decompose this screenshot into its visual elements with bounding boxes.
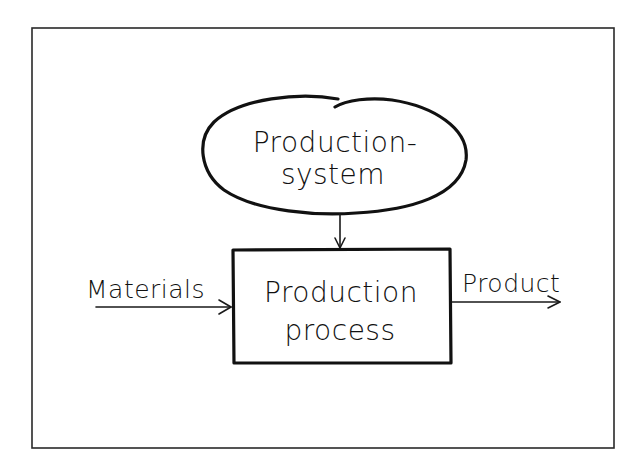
system-to-process-arrow: [335, 214, 345, 248]
materials-label: Materials: [86, 275, 205, 304]
product-label: Product: [462, 269, 560, 298]
process-label-line1: Production: [264, 276, 418, 309]
materials-input-arrow: Materials: [86, 275, 231, 314]
system-label-line2: system: [281, 158, 385, 191]
system-label-line1: Production-: [253, 126, 418, 159]
product-output-arrow: Product: [452, 269, 560, 308]
production-diagram: Production- system Production process Ma…: [0, 0, 644, 466]
diagram-frame: [32, 28, 614, 448]
production-process-node: Production process: [233, 249, 451, 363]
process-label-line2: process: [284, 314, 395, 347]
production-system-node: Production- system: [203, 96, 466, 214]
